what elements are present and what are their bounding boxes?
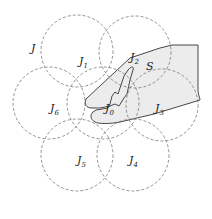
region-s <box>85 45 200 124</box>
label-j6: J6 <box>48 102 59 117</box>
circle-j6 <box>13 67 85 139</box>
circle-j1 <box>41 15 113 87</box>
label-s: S <box>146 60 154 73</box>
diagram: J J1 J2 S J3 J4 J5 J6 J0 <box>0 0 212 219</box>
label-j1: J1 <box>77 55 88 70</box>
label-j2: J2 <box>128 51 139 66</box>
label-j5: J5 <box>75 154 86 169</box>
label-j: J <box>29 42 36 55</box>
label-j4: J4 <box>127 154 138 169</box>
